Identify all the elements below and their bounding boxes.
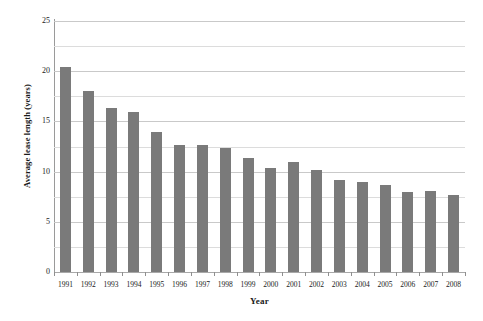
x-axis-tick-mark <box>100 272 123 276</box>
bar-slot <box>54 21 77 272</box>
bar <box>83 91 94 272</box>
y-axis-tick-label: 20 <box>26 67 50 75</box>
x-axis-tick-mark <box>305 272 328 276</box>
x-axis-tick-label: 1997 <box>191 279 214 291</box>
x-axis-tick-mark-end <box>465 272 466 276</box>
bar <box>174 145 185 273</box>
x-axis-tick-mark <box>122 272 145 276</box>
bar <box>448 195 459 272</box>
x-axis-tick-label: 1991 <box>54 279 77 291</box>
x-axis-tick-marks <box>54 272 465 276</box>
x-axis-tick-label: 1994 <box>122 279 145 291</box>
x-axis-tick-mark <box>351 272 374 276</box>
bar-series <box>54 21 465 272</box>
x-axis-tick-label: 2002 <box>305 279 328 291</box>
x-axis-title: Year <box>54 296 465 306</box>
x-axis-tick-mark <box>54 272 77 276</box>
x-axis-tick-label: 2007 <box>419 279 442 291</box>
x-axis-tick-mark <box>442 272 465 276</box>
y-axis-tick-label: 0 <box>26 268 50 276</box>
bar <box>265 168 276 272</box>
bar-slot <box>191 21 214 272</box>
bar-slot <box>374 21 397 272</box>
x-axis-tick-label: 1999 <box>237 279 260 291</box>
bar-slot <box>328 21 351 272</box>
x-axis-tick-labels: 1991199219931994199519961997199819992000… <box>54 279 465 291</box>
x-axis-tick-mark <box>214 272 237 276</box>
x-axis-tick-label: 2005 <box>374 279 397 291</box>
x-axis-tick-mark <box>419 272 442 276</box>
bar <box>380 185 391 272</box>
bar <box>106 108 117 272</box>
x-axis-tick-mark <box>259 272 282 276</box>
bar <box>402 192 413 272</box>
x-axis-tick-label: 2004 <box>351 279 374 291</box>
x-axis-tick-mark <box>396 272 419 276</box>
bar <box>243 158 254 272</box>
y-axis-tick-label: 25 <box>26 17 50 25</box>
x-axis-tick-label: 1995 <box>145 279 168 291</box>
plot-area <box>54 21 465 272</box>
x-axis-tick-label: 2006 <box>396 279 419 291</box>
x-axis-tick-mark <box>191 272 214 276</box>
bar-slot <box>237 21 260 272</box>
x-axis-tick-mark <box>145 272 168 276</box>
bar <box>128 112 139 272</box>
bar <box>220 148 231 272</box>
x-axis-tick-mark <box>374 272 397 276</box>
x-axis-tick-label: 2000 <box>259 279 282 291</box>
bar <box>334 180 345 272</box>
bar-slot <box>442 21 465 272</box>
bar-slot <box>145 21 168 272</box>
bar-chart: Average lease length (years) 0510152025 … <box>0 0 483 321</box>
x-axis-tick-label: 2001 <box>282 279 305 291</box>
y-axis-tick-labels: 0510152025 <box>26 0 50 321</box>
bar-slot <box>351 21 374 272</box>
x-axis-tick-label: 2008 <box>442 279 465 291</box>
bar-slot <box>77 21 100 272</box>
x-axis-tick-label: 1993 <box>100 279 123 291</box>
x-axis-tick-label: 1992 <box>77 279 100 291</box>
bar <box>60 67 71 272</box>
x-axis-tick-mark <box>237 272 260 276</box>
bar-slot <box>419 21 442 272</box>
bar-slot <box>168 21 191 272</box>
bar-slot <box>396 21 419 272</box>
y-axis-tick-label: 15 <box>26 117 50 125</box>
x-axis-tick-mark <box>282 272 305 276</box>
y-axis-tick-label: 10 <box>26 168 50 176</box>
x-axis-tick-label: 2003 <box>328 279 351 291</box>
bar-slot <box>259 21 282 272</box>
bar <box>288 162 299 272</box>
bar <box>357 182 368 272</box>
bar <box>151 132 162 272</box>
bar-slot <box>214 21 237 272</box>
bar-slot <box>305 21 328 272</box>
bar <box>425 191 436 272</box>
bar-slot <box>122 21 145 272</box>
x-axis-tick-mark <box>77 272 100 276</box>
x-axis-tick-label: 1998 <box>214 279 237 291</box>
y-axis-tick-label: 5 <box>26 218 50 226</box>
x-axis-tick-mark <box>168 272 191 276</box>
x-axis-tick-mark <box>328 272 351 276</box>
bar-slot <box>100 21 123 272</box>
x-axis-tick-label: 1996 <box>168 279 191 291</box>
bar <box>197 145 208 273</box>
bar <box>311 170 322 272</box>
bar-slot <box>282 21 305 272</box>
